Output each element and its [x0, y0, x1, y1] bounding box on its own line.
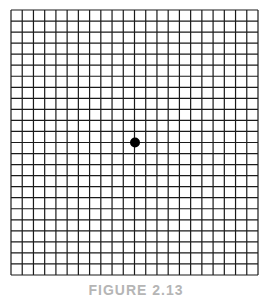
center-fixation-dot [130, 138, 140, 148]
figure-caption: FIGURE 2.13 [0, 282, 272, 298]
